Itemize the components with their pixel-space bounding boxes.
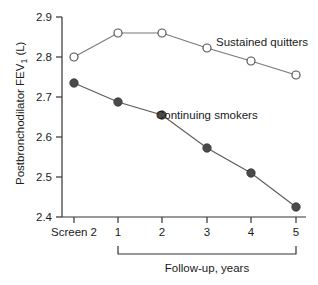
y-axis-tick-labels: 2.9 2.8 2.7 2.6 2.5 2.4 bbox=[36, 11, 53, 223]
x-axis-tick-labels: Screen 2 1 2 3 4 5 bbox=[51, 226, 299, 238]
y-tick-label-2-5: 2.5 bbox=[36, 171, 52, 183]
series-continuing-smokers: Continuing smokers bbox=[70, 79, 300, 211]
y-tick-label-2-8: 2.8 bbox=[36, 51, 52, 63]
data-point-smokers-y3 bbox=[203, 144, 211, 152]
x-axis-title: Follow-up, years bbox=[165, 262, 250, 274]
x-tick-label-2: 2 bbox=[159, 226, 165, 238]
y-tick-label-2-4: 2.4 bbox=[36, 211, 53, 223]
data-point-quitters-y1 bbox=[114, 29, 122, 37]
data-point-quitters-y2 bbox=[158, 29, 166, 37]
x-tick-label-screen2: Screen 2 bbox=[51, 226, 97, 238]
y-tick-label-2-9: 2.9 bbox=[36, 11, 52, 23]
series-sustained-quitters: Sustained quitters bbox=[70, 29, 308, 79]
y-axis-title-unit-text: (L) bbox=[14, 41, 26, 55]
fev1-line-chart: Postbronchodilator FEV1 (L) 2.9 2.8 2.7 … bbox=[0, 0, 318, 285]
series-annotation-sustained-quitters: Sustained quitters bbox=[216, 36, 308, 48]
y-axis-ticks bbox=[56, 17, 62, 217]
data-point-smokers-y5 bbox=[292, 203, 300, 211]
y-tick-label-2-6: 2.6 bbox=[36, 131, 52, 143]
chart-container: Postbronchodilator FEV1 (L) 2.9 2.8 2.7 … bbox=[0, 0, 318, 285]
x-axis-ticks bbox=[74, 217, 296, 223]
data-point-smokers-y4 bbox=[247, 169, 255, 177]
bracket-path bbox=[118, 246, 296, 254]
x-tick-label-5: 5 bbox=[293, 226, 299, 238]
data-point-quitters-y4 bbox=[247, 57, 255, 65]
data-point-quitters-y3 bbox=[203, 44, 211, 52]
data-point-quitters-y5 bbox=[292, 71, 300, 79]
y-axis-title-main: Postbronchodilator FEV bbox=[14, 63, 26, 185]
series-line-continuing-smokers bbox=[74, 83, 296, 207]
y-tick-label-2-7: 2.7 bbox=[36, 91, 52, 103]
followup-bracket: Follow-up, years bbox=[118, 246, 296, 274]
data-point-smokers-screen2 bbox=[70, 79, 78, 87]
x-tick-label-3: 3 bbox=[204, 226, 210, 238]
data-point-smokers-y1 bbox=[114, 98, 122, 106]
x-tick-label-1: 1 bbox=[115, 226, 121, 238]
data-point-quitters-screen2 bbox=[70, 53, 78, 61]
y-axis-title: Postbronchodilator FEV1 (L) bbox=[14, 41, 29, 185]
x-tick-label-4: 4 bbox=[248, 226, 255, 238]
svg-text:Postbronchodilator FEV1 (L): Postbronchodilator FEV1 (L) bbox=[14, 41, 29, 185]
series-annotation-continuing-smokers: Continuing smokers bbox=[156, 109, 258, 121]
